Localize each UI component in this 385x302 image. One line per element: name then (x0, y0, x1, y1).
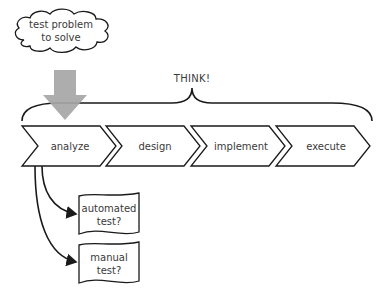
step-label: design (138, 141, 171, 152)
doc-line-1: manual (90, 252, 127, 263)
step-label: analyze (51, 141, 90, 152)
step-implement[interactable]: implement (191, 126, 285, 166)
arrow-to-manual (35, 166, 76, 262)
down-arrow-icon (43, 70, 87, 120)
arrow-to-automated (42, 166, 76, 214)
cloud-line-1: test problem (29, 19, 93, 30)
step-label: implement (214, 141, 268, 152)
doc-line-2: test? (97, 265, 122, 276)
cloud-line-2: to solve (41, 32, 80, 43)
doc-line-2: test? (97, 216, 122, 227)
output-manual-test[interactable]: manual test? (79, 242, 139, 283)
step-execute[interactable]: execute (276, 126, 370, 166)
step-design[interactable]: design (106, 126, 200, 166)
process-diagram: test problem to solve THINK! analyze des… (0, 0, 385, 302)
process-steps: analyze design implement execute (22, 126, 370, 166)
step-label: execute (306, 141, 346, 152)
step-analyze[interactable]: analyze (22, 126, 116, 166)
output-automated-test[interactable]: automated test? (79, 193, 139, 234)
doc-line-1: automated (82, 203, 137, 214)
think-label: THINK! (173, 73, 210, 84)
problem-cloud: test problem to solve (15, 9, 108, 52)
